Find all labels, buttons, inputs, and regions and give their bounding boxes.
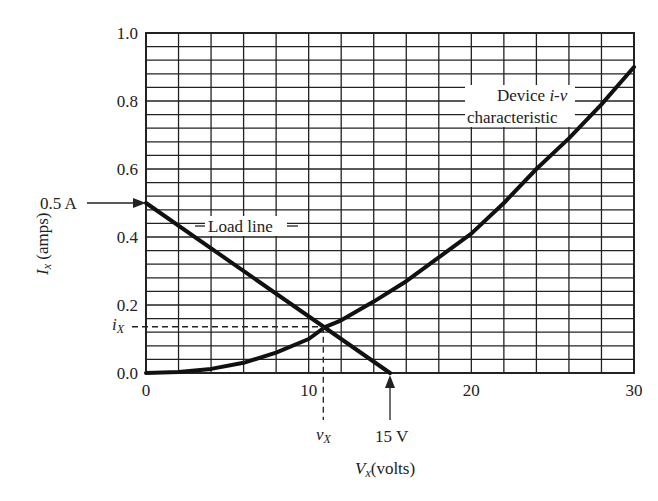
fifteen-volt-arrow	[385, 375, 395, 420]
load-line-label: Load line	[208, 217, 273, 236]
x-tick-label: 30	[626, 381, 643, 400]
vx-label: vX	[316, 425, 332, 446]
load-line-chart: 01020300.00.20.40.60.81.0 0.5 A 15 V Loa…	[0, 0, 658, 501]
x-tick-label: 10	[300, 381, 317, 400]
device-label-line1: Device i-v	[497, 86, 568, 105]
axis-ticks: 01020300.00.20.40.60.81.0	[117, 24, 643, 400]
half-amp-arrow	[87, 198, 146, 208]
x-tick-label: 20	[463, 381, 480, 400]
x-tick-label: 0	[142, 381, 151, 400]
plot-frame	[146, 33, 634, 373]
device-label-line2: characteristic	[467, 108, 558, 127]
ix-label: iX	[112, 315, 125, 336]
half-amp-label: 0.5 A	[40, 194, 78, 213]
plot-grid	[146, 33, 634, 373]
fifteen-volt-label: 15 V	[375, 427, 409, 446]
y-tick-label: 0.4	[117, 228, 139, 247]
y-axis-label: Ix (amps)	[33, 213, 54, 276]
y-tick-label: 0.0	[117, 364, 138, 383]
x-axis-label: Vx(volts)	[355, 459, 415, 480]
y-tick-label: 0.2	[117, 296, 138, 315]
y-tick-label: 0.6	[117, 160, 138, 179]
y-tick-label: 0.8	[117, 92, 138, 111]
y-tick-label: 1.0	[117, 24, 138, 43]
